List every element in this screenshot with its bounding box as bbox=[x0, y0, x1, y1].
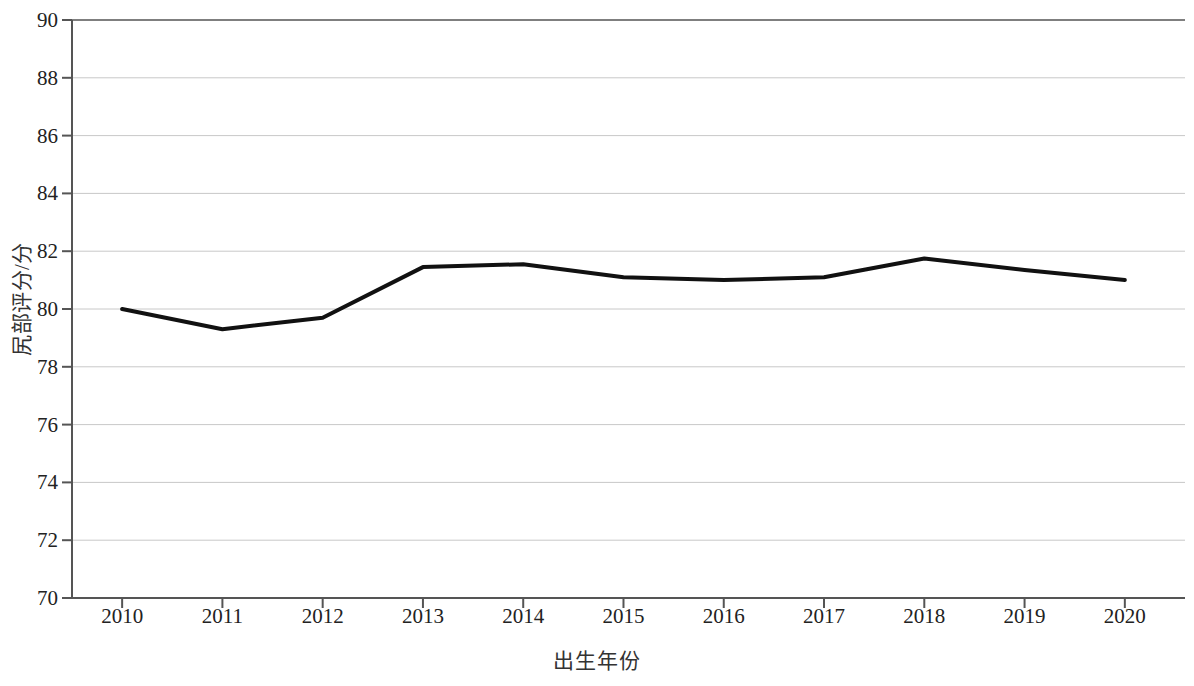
x-axis-tick-label: 2012 bbox=[302, 604, 344, 629]
y-axis-tick-label: 76 bbox=[6, 412, 58, 437]
x-axis-tick-label: 2020 bbox=[1104, 604, 1146, 629]
gridlines bbox=[72, 78, 1185, 540]
axis-ticks bbox=[62, 20, 1125, 608]
y-axis-tick-label: 74 bbox=[6, 470, 58, 495]
x-axis-tick-label: 2017 bbox=[803, 604, 845, 629]
x-axis-tick-label: 2019 bbox=[1004, 604, 1046, 629]
x-axis-title-text: 出生年份 bbox=[553, 649, 641, 673]
x-axis-tick-label: 2016 bbox=[703, 604, 745, 629]
y-axis-tick-label: 84 bbox=[6, 181, 58, 206]
x-axis-title: 出生年份 bbox=[0, 644, 1194, 674]
x-axis-tick-label: 2010 bbox=[101, 604, 143, 629]
line-chart: 尻部评分/分 7072747678808284868890 2010201120… bbox=[0, 0, 1194, 686]
y-axis-tick-label: 90 bbox=[6, 8, 58, 33]
x-axis-tick-label: 2015 bbox=[602, 604, 644, 629]
y-axis-tick-label: 72 bbox=[6, 528, 58, 553]
y-axis-tick-label: 80 bbox=[6, 297, 58, 322]
y-axis-tick-label: 70 bbox=[6, 586, 58, 611]
y-axis-tick-label: 86 bbox=[6, 123, 58, 148]
chart-plot-area bbox=[0, 0, 1194, 686]
data-series-line bbox=[122, 258, 1125, 329]
x-axis-tick-label: 2011 bbox=[202, 604, 243, 629]
x-axis-tick-label: 2014 bbox=[502, 604, 544, 629]
y-axis-tick-label: 78 bbox=[6, 354, 58, 379]
x-axis-tick-label: 2013 bbox=[402, 604, 444, 629]
y-axis-tick-label: 88 bbox=[6, 65, 58, 90]
x-axis-tick-label: 2018 bbox=[903, 604, 945, 629]
y-axis-tick-label: 82 bbox=[6, 239, 58, 264]
